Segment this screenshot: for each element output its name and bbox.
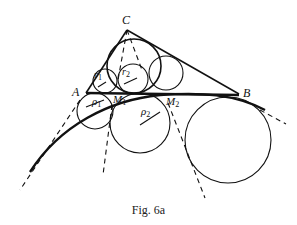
- label-b: B: [243, 87, 250, 99]
- label-c: C: [122, 14, 130, 26]
- label-rho1: ρ1: [92, 96, 101, 109]
- side-cb: [127, 30, 239, 94]
- figure-6a: C A B r1 r2 M1 M2 ρ1 ρ2 Fig. 6a: [0, 0, 297, 225]
- label-m2: M2: [166, 96, 179, 109]
- radius-r1: [98, 82, 106, 87]
- circle-right: [149, 56, 183, 90]
- label-rho2: ρ2: [141, 106, 150, 119]
- dash-left: [20, 100, 80, 190]
- label-r2: r2: [122, 67, 130, 79]
- circle-big: [185, 97, 271, 183]
- figure-caption: Fig. 6a: [0, 203, 297, 218]
- dash-m1: [103, 105, 112, 175]
- label-r1: r1: [94, 70, 102, 82]
- label-m1: M1: [113, 94, 126, 107]
- side-ca: [86, 30, 127, 93]
- label-a: A: [72, 86, 79, 98]
- incircle: [107, 39, 161, 93]
